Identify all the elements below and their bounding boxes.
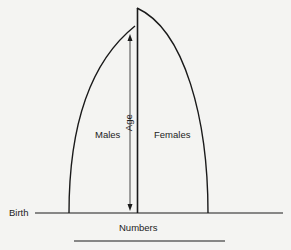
age-label: Age xyxy=(124,114,134,131)
age-arrow-down-icon xyxy=(128,204,133,211)
age-arrow-up-icon xyxy=(128,34,133,41)
numbers-label: Numbers xyxy=(119,223,158,233)
birth-label: Birth xyxy=(9,208,29,218)
females-survivorship-curve xyxy=(137,8,208,213)
females-label: Females xyxy=(154,130,190,140)
males-label: Males xyxy=(95,130,120,140)
population-pyramid-diagram xyxy=(0,0,291,250)
